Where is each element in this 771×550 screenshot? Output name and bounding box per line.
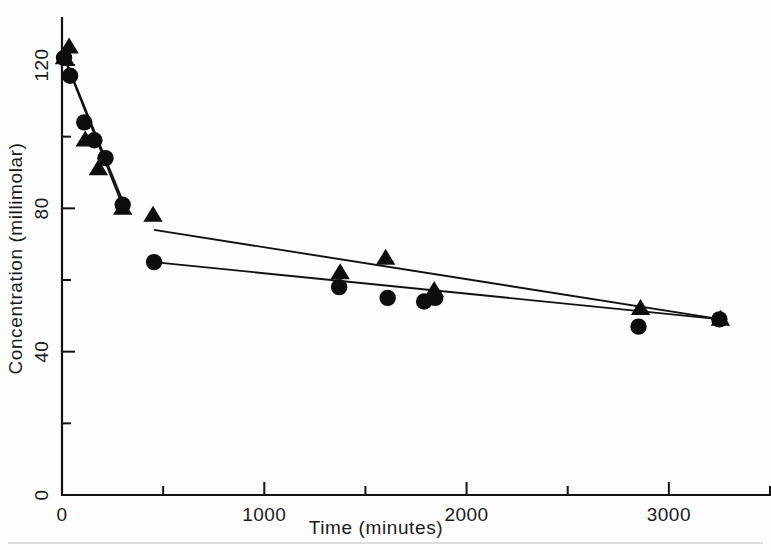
- data-point-triangle: [330, 263, 349, 279]
- axis-layer: [62, 18, 770, 495]
- data-point-circle: [62, 68, 78, 84]
- x-tick-label-0: 0: [56, 504, 67, 525]
- x-axis-title: Time (minutes): [309, 517, 443, 538]
- data-point-triangle: [143, 206, 162, 222]
- data-point-circle: [146, 254, 162, 270]
- data-marker-layer: [55, 37, 730, 334]
- data-point-circle: [630, 318, 646, 334]
- x-tick-label-3000: 3000: [647, 504, 691, 525]
- x-tick-label-2000: 2000: [444, 504, 488, 525]
- data-point-triangle: [376, 249, 395, 265]
- y-axis-title: Concentration (millimolar): [5, 142, 26, 374]
- data-point-circle: [379, 290, 395, 306]
- axis-spine: [62, 18, 770, 495]
- figure-canvas: 040801200100020003000Time (minutes)Conce…: [0, 0, 771, 550]
- x-tick-label-1000: 1000: [242, 504, 286, 525]
- fit-line-layer: [66, 61, 721, 319]
- axis-label-layer: 040801200100020003000Time (minutes)Conce…: [5, 48, 691, 538]
- y-tick-label-80: 80: [31, 197, 52, 219]
- y-tick-label-120: 120: [31, 48, 52, 81]
- concentration-vs-time-chart: 040801200100020003000Time (minutes)Conce…: [0, 0, 771, 550]
- y-tick-label-0: 0: [31, 489, 52, 500]
- data-point-circle: [76, 114, 92, 130]
- data-point-circle: [331, 279, 347, 295]
- y-tick-label-40: 40: [31, 341, 52, 363]
